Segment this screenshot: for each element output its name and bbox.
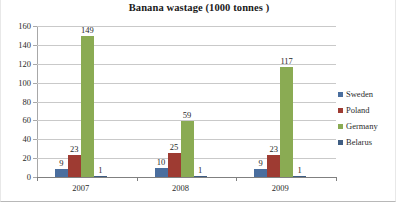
bar bbox=[254, 169, 267, 177]
bar-value-label: 1 bbox=[285, 166, 315, 175]
legend-item[interactable]: Poland bbox=[338, 102, 378, 118]
x-axis-category-label: 2009 bbox=[250, 184, 310, 193]
legend-item[interactable]: Sweden bbox=[338, 86, 378, 102]
bar bbox=[81, 36, 94, 177]
bar-value-label: 117 bbox=[272, 57, 302, 66]
legend-item[interactable]: Belarus bbox=[338, 134, 378, 150]
x-axis-category-label: 2008 bbox=[151, 184, 211, 193]
y-axis-tick-label: 120 bbox=[5, 60, 31, 69]
chart-title: Banana wastage (1000 tonnes ) bbox=[1, 2, 396, 13]
x-axis-line bbox=[37, 177, 336, 178]
x-axis-tick-mark bbox=[236, 177, 237, 181]
x-axis-tick-mark bbox=[37, 177, 38, 181]
legend-swatch-icon bbox=[338, 140, 343, 145]
bar-value-label: 59 bbox=[172, 111, 202, 120]
bar bbox=[155, 168, 168, 177]
bar bbox=[168, 153, 181, 177]
legend-swatch-icon bbox=[338, 124, 343, 129]
bar bbox=[68, 155, 81, 177]
y-axis-tick-label: 20 bbox=[5, 154, 31, 163]
legend-swatch-icon bbox=[338, 108, 343, 113]
y-axis-tick-label: 0 bbox=[5, 173, 31, 182]
y-axis-tick-label: 160 bbox=[5, 22, 31, 31]
y-axis-tick-label: 40 bbox=[5, 135, 31, 144]
legend-item[interactable]: Germany bbox=[338, 118, 378, 134]
chart-legend: SwedenPolandGermanyBelarus bbox=[338, 86, 378, 150]
plot-area: 923149110255919231171 bbox=[37, 26, 336, 177]
bar-value-label: 1 bbox=[85, 166, 115, 175]
chart-container: Banana wastage (1000 tonnes ) 0204060801… bbox=[0, 0, 396, 202]
y-axis-tick-label: 80 bbox=[5, 98, 31, 107]
x-axis-tick-mark bbox=[137, 177, 138, 181]
bar bbox=[267, 155, 280, 177]
y-axis-tick-label: 60 bbox=[5, 116, 31, 125]
legend-label: Germany bbox=[346, 122, 378, 131]
legend-label: Sweden bbox=[346, 90, 373, 99]
legend-swatch-icon bbox=[338, 92, 343, 97]
x-axis-tick-mark bbox=[336, 177, 337, 181]
legend-label: Belarus bbox=[346, 138, 372, 147]
bar-value-label: 1 bbox=[185, 166, 215, 175]
bar-value-label: 149 bbox=[72, 26, 102, 35]
legend-label: Poland bbox=[346, 106, 370, 115]
x-axis-category-label: 2007 bbox=[51, 184, 111, 193]
bar bbox=[55, 169, 68, 177]
y-axis-tick-label: 140 bbox=[5, 41, 31, 50]
y-axis-tick-label: 100 bbox=[5, 79, 31, 88]
bar bbox=[280, 67, 293, 177]
